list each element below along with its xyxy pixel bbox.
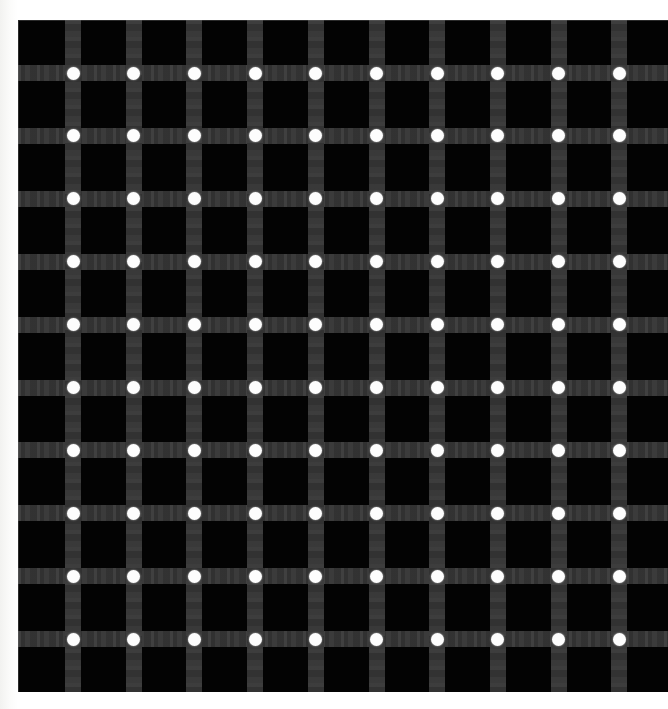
- intersection-dot-r3-c3: [188, 192, 201, 205]
- intersection-dot-r4-c9: [552, 255, 565, 268]
- intersection-dot-r6-c6: [370, 381, 383, 394]
- intersection-dot-r2-c7: [431, 129, 444, 142]
- intersection-dot-r6-c2: [127, 381, 140, 394]
- intersection-dot-r7-c10: [613, 444, 626, 457]
- intersection-dot-r5-c1: [67, 318, 80, 331]
- intersection-dot-r5-c6: [370, 318, 383, 331]
- intersection-dot-r3-c4: [249, 192, 262, 205]
- intersection-dot-r2-c2: [127, 129, 140, 142]
- intersection-dot-r8-c8: [491, 507, 504, 520]
- intersection-dot-r4-c6: [370, 255, 383, 268]
- intersection-dot-r8-c1: [67, 507, 80, 520]
- intersection-dot-r2-c1: [67, 129, 80, 142]
- intersection-dot-r9-c5: [309, 570, 322, 583]
- intersection-dot-r10-c4: [249, 633, 262, 646]
- intersection-dot-r6-c1: [67, 381, 80, 394]
- intersection-dot-r5-c8: [491, 318, 504, 331]
- intersection-dot-r8-c9: [552, 507, 565, 520]
- illusion-figure: [0, 0, 668, 709]
- intersection-dot-r8-c3: [188, 507, 201, 520]
- intersection-dot-r6-c8: [491, 381, 504, 394]
- intersection-dot-r6-c3: [188, 381, 201, 394]
- intersection-dot-r1-c7: [431, 67, 444, 80]
- intersection-dot-r6-c9: [552, 381, 565, 394]
- intersection-dot-r9-c4: [249, 570, 262, 583]
- intersection-dot-r4-c3: [188, 255, 201, 268]
- intersection-dot-r4-c4: [249, 255, 262, 268]
- intersection-dot-r5-c4: [249, 318, 262, 331]
- intersection-dot-r7-c3: [188, 444, 201, 457]
- intersection-dot-r1-c2: [127, 67, 140, 80]
- intersection-dot-r3-c7: [431, 192, 444, 205]
- intersection-dot-r4-c2: [127, 255, 140, 268]
- intersection-dot-r1-c5: [309, 67, 322, 80]
- intersection-dot-r8-c5: [309, 507, 322, 520]
- intersection-dot-r9-c10: [613, 570, 626, 583]
- intersection-dot-r7-c6: [370, 444, 383, 457]
- intersection-dot-r2-c4: [249, 129, 262, 142]
- intersection-dot-r8-c4: [249, 507, 262, 520]
- intersection-dot-r7-c1: [67, 444, 80, 457]
- intersection-dot-r10-c6: [370, 633, 383, 646]
- intersection-dot-r2-c9: [552, 129, 565, 142]
- intersection-dot-r9-c1: [67, 570, 80, 583]
- intersection-dot-r4-c8: [491, 255, 504, 268]
- intersection-dot-r10-c8: [491, 633, 504, 646]
- intersection-dot-r3-c1: [67, 192, 80, 205]
- intersection-dot-r3-c6: [370, 192, 383, 205]
- intersection-dot-r7-c2: [127, 444, 140, 457]
- intersection-dot-r6-c5: [309, 381, 322, 394]
- intersection-dot-r10-c7: [431, 633, 444, 646]
- intersection-dot-r3-c2: [127, 192, 140, 205]
- intersection-dot-r4-c10: [613, 255, 626, 268]
- intersection-dot-r4-c7: [431, 255, 444, 268]
- intersection-dot-r7-c7: [431, 444, 444, 457]
- intersection-dot-r10-c10: [613, 633, 626, 646]
- intersection-dot-r1-c8: [491, 67, 504, 80]
- intersection-dot-r8-c10: [613, 507, 626, 520]
- intersection-dot-r9-c2: [127, 570, 140, 583]
- intersection-dot-r9-c6: [370, 570, 383, 583]
- intersection-dot-r10-c3: [188, 633, 201, 646]
- intersection-dot-r6-c10: [613, 381, 626, 394]
- intersection-dot-r8-c6: [370, 507, 383, 520]
- grid-panel: [18, 20, 668, 692]
- intersection-dot-r5-c7: [431, 318, 444, 331]
- intersection-dot-r8-c2: [127, 507, 140, 520]
- intersection-dot-r10-c9: [552, 633, 565, 646]
- intersection-dots-group: [18, 20, 668, 692]
- intersection-dot-r1-c1: [67, 67, 80, 80]
- intersection-dot-r10-c1: [67, 633, 80, 646]
- intersection-dot-r7-c8: [491, 444, 504, 457]
- intersection-dot-r9-c8: [491, 570, 504, 583]
- intersection-dot-r4-c1: [67, 255, 80, 268]
- intersection-dot-r1-c9: [552, 67, 565, 80]
- intersection-dot-r5-c10: [613, 318, 626, 331]
- intersection-dot-r5-c3: [188, 318, 201, 331]
- intersection-dot-r7-c5: [309, 444, 322, 457]
- intersection-dot-r5-c9: [552, 318, 565, 331]
- intersection-dot-r5-c5: [309, 318, 322, 331]
- intersection-dot-r3-c8: [491, 192, 504, 205]
- intersection-dot-r9-c3: [188, 570, 201, 583]
- intersection-dot-r5-c2: [127, 318, 140, 331]
- intersection-dot-r3-c5: [309, 192, 322, 205]
- intersection-dot-r3-c10: [613, 192, 626, 205]
- intersection-dot-r9-c7: [431, 570, 444, 583]
- intersection-dot-r6-c7: [431, 381, 444, 394]
- intersection-dot-r2-c5: [309, 129, 322, 142]
- intersection-dot-r10-c5: [309, 633, 322, 646]
- intersection-dot-r1-c3: [188, 67, 201, 80]
- intersection-dot-r1-c6: [370, 67, 383, 80]
- intersection-dot-r6-c4: [249, 381, 262, 394]
- intersection-dot-r7-c4: [249, 444, 262, 457]
- intersection-dot-r2-c3: [188, 129, 201, 142]
- intersection-dot-r10-c2: [127, 633, 140, 646]
- intersection-dot-r2-c10: [613, 129, 626, 142]
- intersection-dot-r9-c9: [552, 570, 565, 583]
- intersection-dot-r2-c8: [491, 129, 504, 142]
- intersection-dot-r8-c7: [431, 507, 444, 520]
- intersection-dot-r2-c6: [370, 129, 383, 142]
- intersection-dot-r1-c10: [613, 67, 626, 80]
- intersection-dot-r1-c4: [249, 67, 262, 80]
